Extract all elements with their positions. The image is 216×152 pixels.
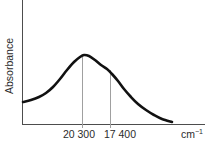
absorption-spectrum-figure: 20 300 17 400 cm−1 Absorbance xyxy=(0,0,216,152)
x-axis-unit-base: cm xyxy=(181,128,195,140)
y-axis-label: Absorbance xyxy=(3,38,15,94)
absorbance-curve xyxy=(23,55,172,122)
spectrum-plot: 20 300 17 400 cm−1 Absorbance xyxy=(0,0,216,152)
x-tick-label-17400: 17 400 xyxy=(104,128,136,140)
x-axis-unit-exponent: −1 xyxy=(195,128,203,135)
cut-off-caption xyxy=(4,145,154,152)
x-tick-label-20300: 20 300 xyxy=(63,128,95,140)
x-axis-unit-label: cm−1 xyxy=(181,128,203,140)
